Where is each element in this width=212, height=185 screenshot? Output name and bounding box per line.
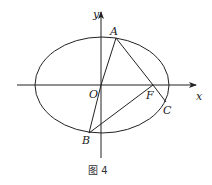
point-F-label: F xyxy=(145,89,154,102)
x-axis-label: x xyxy=(196,90,203,103)
y-axis-label: y xyxy=(92,8,100,21)
segment-OA xyxy=(101,38,116,85)
point-A-label: A xyxy=(109,25,118,38)
origin-label: O xyxy=(89,88,98,101)
point-C-label: C xyxy=(163,104,172,117)
figure-caption: 图 4 xyxy=(88,165,108,176)
segment-FC xyxy=(153,85,166,102)
ellipse-diagram: y x O A B F C 图 4 xyxy=(0,0,212,185)
segment-BF xyxy=(89,85,153,133)
point-B-label: B xyxy=(81,134,90,147)
segment-AF xyxy=(116,38,153,85)
